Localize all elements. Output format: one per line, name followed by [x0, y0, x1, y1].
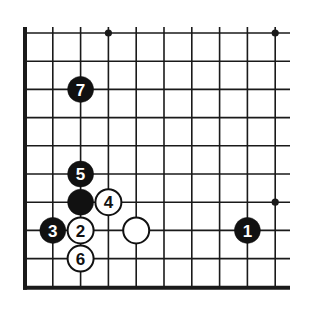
move-number-label: 1	[243, 222, 252, 241]
star-point-icon	[272, 199, 279, 206]
black-stone-icon	[68, 189, 94, 215]
move-number-label: 6	[76, 250, 85, 269]
move-number-label: 4	[104, 193, 114, 212]
star-point-icon	[272, 29, 279, 36]
move-number-label: 2	[76, 222, 85, 241]
move-number-label: 3	[48, 222, 57, 241]
white-stone	[123, 217, 149, 243]
white-stone-icon	[123, 217, 149, 243]
move-number-label: 5	[76, 165, 85, 184]
black-stone: 1	[234, 217, 260, 243]
white-stone: 2	[68, 217, 94, 243]
white-stone: 4	[95, 189, 121, 215]
star-point-icon	[105, 29, 112, 36]
grid-lines	[23, 27, 290, 290]
black-stone: 7	[68, 76, 94, 102]
go-board-svg: 1234567	[0, 0, 311, 328]
white-stone: 6	[68, 246, 94, 272]
black-stone: 3	[40, 217, 66, 243]
black-stone: 5	[68, 161, 94, 187]
black-stone	[68, 189, 94, 215]
go-board-diagram: 1234567	[0, 0, 311, 328]
move-number-label: 7	[76, 81, 85, 100]
